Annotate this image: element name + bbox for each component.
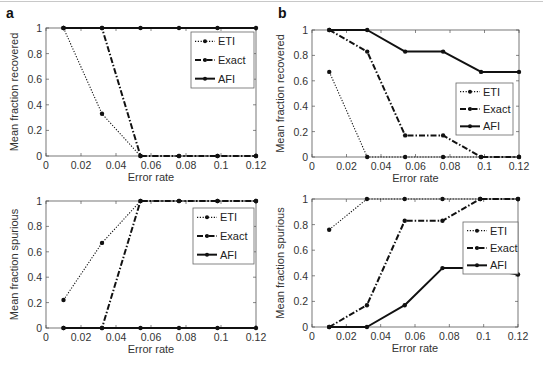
data-marker [215,154,219,158]
data-marker [327,325,331,329]
data-marker [365,155,369,159]
legend-entry-exact: Exact [220,230,248,242]
data-marker [365,28,369,32]
y-axis-label: Mean fraction recovered [274,34,286,153]
x-axis-label: Error rate [392,342,438,354]
x-tick-label: 0.1 [214,159,229,171]
y-axis-label: Mean fraction spurious [274,207,286,319]
data-marker [403,133,407,137]
y-tick-label: 0 [302,321,308,333]
data-marker [479,155,483,159]
y-tick-label: 0.2 [27,297,42,309]
data-marker [327,228,331,232]
x-tick-label: 0.02 [71,331,92,343]
x-axis-label: Error rate [128,343,174,355]
data-marker [403,155,407,159]
chart-a-spurious: 00.020.040.060.080.10.1200.20.40.60.81Er… [8,195,266,355]
data-marker [327,28,331,32]
x-tick-label: 0.1 [214,331,229,343]
data-marker [100,241,104,245]
data-marker [215,26,219,30]
y-tick-label: 0.4 [27,271,42,283]
legend-entry-eti: ETI [483,86,500,98]
data-marker [177,199,181,203]
legend: ETIExactAFI [463,222,518,274]
y-tick-label: 0 [302,151,308,163]
data-marker [403,49,407,53]
x-tick-label: 0.12 [246,159,267,171]
data-marker [440,197,444,201]
x-tick-label: 0.02 [71,159,92,171]
y-axis-label: Mean fraction recovered [8,33,20,152]
x-tick-label: 0.1 [477,160,492,172]
data-marker [61,26,65,30]
data-marker [254,199,258,203]
x-tick-label: 0.06 [141,159,162,171]
x-tick-label: 0.08 [176,159,197,171]
y-tick-label: 0.2 [293,126,308,138]
y-tick-label: 0.4 [293,270,308,282]
y-tick-label: 0.6 [293,244,308,256]
data-marker [254,154,258,158]
legend-entry-afi: AFI [220,249,237,261]
x-axis-label: Error rate [392,172,438,184]
legend-entry-exact: Exact [218,54,246,66]
data-marker [365,325,369,329]
data-marker [441,155,445,159]
y-tick-label: 0.2 [27,124,42,136]
series-line-afi [329,268,518,327]
x-tick-label: 0.08 [440,160,461,172]
y-tick-label: 0.8 [27,48,42,60]
legend-entry-exact: Exact [483,103,511,115]
legend-entry-afi: AFI [483,120,500,132]
legend-entry-eti: ETI [218,35,235,47]
y-tick-label: 0.8 [293,49,308,61]
y-axis-label: Mean fraction spurious [8,208,20,320]
data-marker [254,26,258,30]
x-tick-label: 0.06 [141,331,162,343]
data-marker [138,26,142,30]
y-tick-label: 0 [36,150,42,162]
chart-a-recovered: 00.020.040.060.080.10.1200.20.40.60.81Er… [6,5,266,183]
data-marker [441,133,445,137]
data-marker [403,197,407,201]
data-marker [365,197,369,201]
x-tick-label: 0.04 [106,331,127,343]
data-marker [138,154,142,158]
y-tick-label: 1 [302,24,308,36]
data-marker [177,154,181,158]
x-tick-label: 0.12 [508,330,529,342]
legend-entry-exact: Exact [490,242,518,254]
x-tick-label: 0 [309,160,315,172]
data-marker [215,326,219,330]
data-marker [440,266,444,270]
y-tick-label: 0.2 [293,295,308,307]
data-marker [100,112,104,116]
data-marker [138,326,142,330]
y-tick-label: 1 [302,193,308,205]
y-tick-label: 0.8 [293,219,308,231]
data-marker [403,219,407,223]
data-marker [177,26,181,30]
x-axis-label: Error rate [128,171,174,183]
series-line-afi [329,30,519,72]
y-tick-label: 1 [36,22,42,34]
x-tick-label: 0 [43,331,49,343]
x-tick-label: 0.12 [246,331,267,343]
data-marker [517,155,521,159]
y-tick-label: 0.6 [27,246,42,258]
legend-entry-afi: AFI [490,259,507,271]
y-tick-label: 0.6 [293,75,308,87]
x-tick-label: 0.04 [371,160,392,172]
data-marker [138,199,142,203]
data-marker [327,70,331,74]
data-marker [215,199,219,203]
y-tick-label: 1 [36,195,42,207]
x-tick-label: 0.1 [476,330,491,342]
x-tick-label: 0.12 [509,160,530,172]
data-marker [61,298,65,302]
data-marker [365,49,369,53]
x-tick-label: 0.06 [405,330,426,342]
x-tick-label: 0.02 [336,330,357,342]
x-tick-label: 0 [43,159,49,171]
